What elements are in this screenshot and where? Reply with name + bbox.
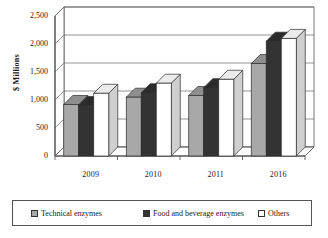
legend-swatch-icon bbox=[31, 210, 38, 217]
x-tick-label: 2011 bbox=[196, 170, 236, 179]
x-tick-label: 2009 bbox=[71, 170, 111, 179]
x-tick-label: 2016 bbox=[258, 170, 298, 179]
legend-label: Others bbox=[268, 209, 289, 218]
legend-item-2[interactable]: Food and beverage enzymes bbox=[143, 209, 244, 218]
legend-item-1[interactable]: Technical enzymes bbox=[31, 209, 102, 218]
bar-chart: $ Millions 05001,0001,5002,0002,500 2009… bbox=[0, 0, 328, 238]
legend-swatch-icon bbox=[258, 210, 265, 217]
x-tick-label: 2010 bbox=[133, 170, 173, 179]
legend-swatch-icon bbox=[143, 210, 150, 217]
legend-item-3[interactable]: Others bbox=[258, 209, 289, 218]
legend-label: Technical enzymes bbox=[41, 209, 102, 218]
legend-label: Food and beverage enzymes bbox=[153, 209, 244, 218]
chart-legend: Technical enzymesFood and beverage enzym… bbox=[12, 200, 312, 226]
